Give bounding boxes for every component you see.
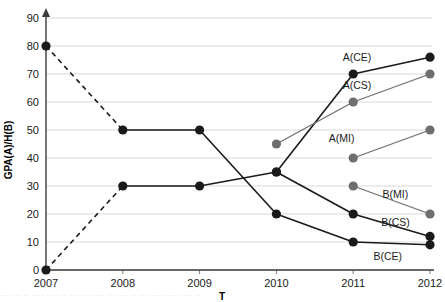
data-point-marker [349,97,358,106]
data-point-marker [349,237,358,246]
x-tick-label: 2010 [264,277,288,289]
series-annotation-label: B(CS) [381,216,410,228]
x-tick-label: 2007 [34,277,58,289]
x-tick-label: 2008 [111,277,135,289]
series-segment [276,214,353,242]
x-tick-label: 2012 [418,277,442,289]
data-point-marker [118,181,127,190]
data-point-marker [425,232,434,241]
gridlines-group [46,18,432,270]
data-point-marker [425,125,434,134]
series-ami [349,125,435,162]
data-point-marker [425,240,434,249]
page-caption-fragment: ··· ··· ·· ···· ···· ·· ·· ··· ····· ·· … [0,291,445,302]
series-segment [200,130,277,214]
y-tick-label: 60 [27,96,39,108]
data-point-marker [349,209,358,218]
series-bce [41,41,434,249]
series-bcs [272,167,435,241]
y-tick-label: 90 [27,12,39,24]
data-point-marker [272,209,281,218]
y-tick-label: 40 [27,152,39,164]
data-point-marker [425,53,434,62]
y-tick-label: 80 [27,40,39,52]
data-point-marker [272,139,281,148]
series-annotation-label: A(MI) [329,132,355,144]
y-tick-label: 70 [27,68,39,80]
data-point-marker [425,209,434,218]
chart-container: 0102030405060708090 20072008200920102011… [0,0,445,302]
line-chart: 0102030405060708090 20072008200920102011… [0,0,445,302]
y-tick-label: 50 [27,124,39,136]
data-point-marker [349,181,358,190]
data-point-marker [41,41,50,50]
data-point-marker [349,153,358,162]
x-tick-label: 2009 [187,277,211,289]
y-tick-label: 0 [33,264,39,276]
data-point-marker [195,181,204,190]
y-axis-arrow-icon [42,8,50,17]
series-annotation-label: B(CE) [373,250,402,262]
series-segment [276,172,353,214]
series-segment [46,46,123,130]
series-annotation-label: B(MI) [383,188,409,200]
axes-group [42,8,434,272]
series-annotation-label: A(CS) [343,79,372,91]
series-ace [41,53,434,275]
y-tick-label: 30 [27,180,39,192]
data-point-marker [349,69,358,78]
x-tick-labels-group: 200720082009201020112012 [34,277,442,289]
x-tick-label: 2011 [341,277,365,289]
y-tick-label: 10 [27,236,39,248]
data-point-marker [41,265,50,274]
series-annotation-label: A(CE) [343,51,372,63]
series-segment [46,186,123,270]
data-point-marker [272,167,281,176]
series-labels-layer: A(CE)A(CS)A(MI)B(MI)B(CS)B(CE) [329,51,410,262]
y-tick-label: 20 [27,208,39,220]
y-axis-title: GPA(A)/H(B) [3,121,14,180]
series-segment [353,130,430,158]
data-point-marker [425,69,434,78]
series-segment [200,172,277,186]
y-tick-labels-group: 0102030405060708090 [27,12,39,276]
data-point-marker [118,125,127,134]
data-point-marker [195,125,204,134]
